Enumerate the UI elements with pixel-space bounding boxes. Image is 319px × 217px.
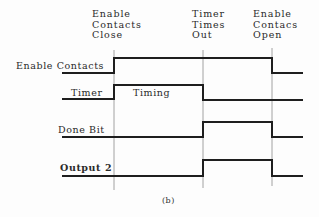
event-header-enable-open: Enable Contacs Open [253, 9, 298, 41]
event-header-line: Out [192, 30, 225, 41]
event-header-line: Close [92, 30, 142, 41]
event-header-line: Enable [253, 9, 298, 20]
event-header-line: Timer [192, 9, 225, 20]
signal-label-timer: Timer [71, 88, 103, 98]
event-header-line: Enable [92, 9, 142, 20]
signal-label-enable-contacts: Enable Contacts [16, 61, 104, 71]
timing-annotation: Timing [133, 88, 170, 98]
signal-label-output-2: Output 2 [60, 163, 112, 173]
event-header-timer-out: Timer Times Out [192, 9, 225, 41]
timing-diagram: Enable Contacts Close Timer Times Out En… [0, 0, 319, 217]
signal-label-done-bit: Done Bit [58, 125, 105, 135]
event-header-enable-close: Enable Contacts Close [92, 9, 142, 41]
figure-caption: (b) [162, 196, 175, 205]
event-header-line: Open [253, 30, 298, 41]
